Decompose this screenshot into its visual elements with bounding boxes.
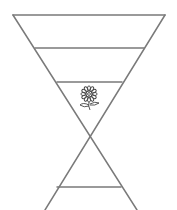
diagram-canvas bbox=[0, 0, 177, 210]
flower-icon bbox=[80, 86, 99, 110]
right-leg bbox=[45, 15, 165, 210]
left-leg bbox=[13, 15, 137, 210]
diagram-svg bbox=[0, 0, 177, 210]
